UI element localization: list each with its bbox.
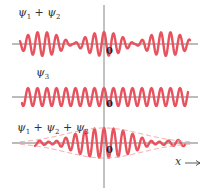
label-psi3: ψ3 <box>36 66 49 81</box>
label-psi1-plus-psi2: ψ1 + ψ2 <box>18 6 60 21</box>
envelope-lower <box>20 144 190 158</box>
label-psi-sum: ψ1 + ψ2 + ψ3 <box>17 121 89 136</box>
x-axis-label: x <box>175 155 181 168</box>
origin-label-3: 0 <box>106 144 113 155</box>
origin-label-1: 0 <box>106 45 113 56</box>
origin-label-2: 0 <box>106 98 113 109</box>
